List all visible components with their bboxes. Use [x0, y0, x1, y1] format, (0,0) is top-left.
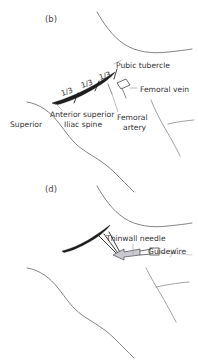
label-guidewire: Guidewire [148, 247, 187, 256]
label-iliac-spine: Iliac spine [64, 120, 102, 129]
tick-mark-pubic-end-b [114, 69, 117, 79]
label-anterior-superior: Anterior superior [50, 110, 115, 119]
thigh-contour-right-b [151, 100, 180, 156]
inguinal-ligament-d [62, 225, 110, 252]
abdominal-contour-upper-d [97, 186, 192, 227]
thigh-contour-lower-d [27, 268, 134, 358]
label-artery: artery [123, 123, 147, 132]
femoral-vessel-stem-b [122, 88, 126, 98]
thinwall-needle-arrowhead-d [113, 249, 140, 260]
panel-tag-d: (d) [45, 184, 57, 194]
thigh-branch-right-b [168, 120, 194, 124]
label-superior: Superior [10, 120, 43, 129]
anatomy-figure-canvas: (b) 1/3 1/3 1/3 Pubic tubercle Femoral v… [0, 0, 198, 361]
abdominal-contour-upper-b [97, 12, 192, 53]
label-femoral: Femoral [117, 113, 148, 122]
fraction-label-medial: 1/3 [98, 70, 112, 82]
label-femoral-vein: Femoral vein [140, 85, 189, 94]
panel-d-group: (d) Thinwall needle Guidewire [27, 184, 192, 358]
figure-container: (b) 1/3 1/3 1/3 Pubic tubercle Femoral v… [0, 0, 198, 361]
panel-tag-b: (b) [45, 14, 57, 24]
panel-b-group: (b) 1/3 1/3 1/3 Pubic tubercle Femoral v… [10, 12, 194, 192]
femoral-vein-marker-b [117, 79, 130, 89]
label-thinwall-needle: Thinwall needle [105, 234, 166, 243]
femoral-artery-marker-b [108, 84, 112, 94]
label-pubic-tubercle: Pubic tubercle [116, 61, 170, 70]
thigh-branch-right-d [156, 282, 189, 287]
thigh-contour-right-d [146, 268, 176, 322]
